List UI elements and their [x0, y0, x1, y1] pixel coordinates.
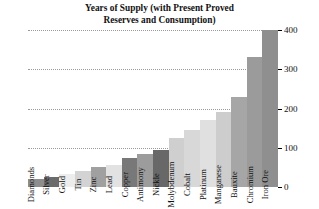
- bar-nickle[interactable]: Nickle: [153, 150, 169, 187]
- bar-label-platinum: Platinum: [199, 169, 208, 200]
- bar-label-gold: Gold: [58, 176, 67, 193]
- bar-label-manganese: Manganese: [215, 165, 224, 204]
- bar-antimony[interactable]: Antimony: [137, 154, 153, 187]
- bar-lead[interactable]: Lead: [106, 165, 122, 187]
- chart-container: Years of Supply (with Present Proved Res…: [0, 0, 319, 209]
- plot-area: DiamondsSilverGoldTinZincLeadCopperAntim…: [28, 30, 278, 187]
- bar-diamonds[interactable]: Diamonds: [28, 179, 44, 187]
- y-tick-200: [278, 109, 282, 110]
- bar-label-molybdenum: Molybdenum: [168, 162, 177, 208]
- bar-gold[interactable]: Gold: [59, 174, 75, 187]
- bar-platinum[interactable]: Platinum: [200, 120, 216, 187]
- bar-label-antimony: Antimony: [137, 168, 146, 203]
- chart-title-line-1: Years of Supply (with Present Proved: [0, 3, 319, 15]
- bar-label-nickle: Nickle: [152, 174, 161, 197]
- y-tick-label-400: 400: [284, 25, 298, 35]
- bar-tin[interactable]: Tin: [75, 171, 91, 187]
- bar-series: DiamondsSilverGoldTinZincLeadCopperAntim…: [28, 30, 278, 187]
- bar-label-chromium: Chromium: [246, 166, 255, 203]
- bar-label-lead: Lead: [105, 176, 114, 193]
- y-tick-label-0: 0: [284, 182, 289, 192]
- bar-silver[interactable]: Silver: [44, 177, 60, 187]
- y-tick-label-300: 300: [284, 64, 298, 74]
- bar-chromium[interactable]: Chromium: [247, 57, 263, 187]
- bar-bauxite[interactable]: Bauxite: [231, 97, 247, 187]
- bar-cobalt[interactable]: Cobalt: [184, 130, 200, 187]
- y-tick-label-100: 100: [284, 143, 298, 153]
- bar-label-iron-ore: Iron Ore: [262, 170, 271, 199]
- y-tick-label-200: 200: [284, 104, 298, 114]
- bar-label-tin: Tin: [74, 179, 83, 191]
- bar-label-cobalt: Cobalt: [183, 174, 192, 197]
- bar-label-diamonds: Diamonds: [27, 167, 36, 202]
- y-tick-300: [278, 69, 282, 70]
- chart-title-line-2: Reserves and Consumption): [0, 15, 319, 27]
- bar-label-zinc: Zinc: [90, 177, 99, 193]
- bar-molybdenum[interactable]: Molybdenum: [169, 138, 185, 187]
- bar-copper[interactable]: Copper: [122, 158, 138, 187]
- bar-label-copper: Copper: [121, 172, 130, 197]
- y-tick-400: [278, 30, 282, 31]
- bar-zinc[interactable]: Zinc: [91, 167, 107, 187]
- chart-title: Years of Supply (with Present Proved Res…: [0, 3, 319, 26]
- bar-label-bauxite: Bauxite: [230, 172, 239, 199]
- bar-label-silver: Silver: [43, 175, 52, 196]
- bar-iron-ore[interactable]: Iron Ore: [262, 30, 278, 187]
- y-tick-0: [278, 187, 282, 188]
- bar-manganese[interactable]: Manganese: [216, 112, 232, 187]
- y-tick-100: [278, 148, 282, 149]
